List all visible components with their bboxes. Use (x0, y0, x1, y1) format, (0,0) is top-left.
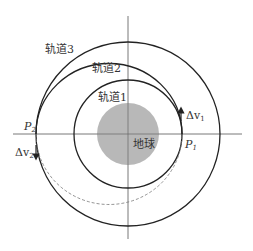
orbit-3-label: 轨道3 (45, 42, 74, 56)
earth-label: 地球 (133, 137, 155, 151)
dv2-label: Δv2 (15, 146, 34, 160)
p2-label: P2 (23, 120, 36, 134)
dv1-label: Δv1 (186, 109, 205, 123)
orbit-2-label: 轨道2 (92, 61, 121, 75)
hohmann-transfer-diagram: 轨道3 轨道2 轨道1 地球 P2 P1 Δv1 Δv2 (0, 0, 253, 251)
p1-label: P1 (184, 138, 197, 152)
orbit-1-label: 轨道1 (98, 90, 127, 104)
